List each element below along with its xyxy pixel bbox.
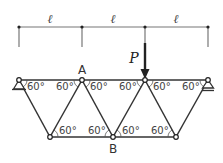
node-b (111, 135, 116, 140)
angle-label: 60° (27, 81, 45, 92)
label-b: B (109, 142, 117, 156)
angle-label: 60° (182, 81, 200, 92)
load-label: P (128, 50, 139, 66)
span-label-3: ℓ (174, 12, 179, 26)
angle-label: 60° (88, 125, 106, 136)
angle-label: 60° (90, 81, 108, 92)
load-arrow (141, 43, 150, 79)
angle-label: 60° (59, 125, 77, 136)
angle-label: 60° (56, 81, 74, 92)
node (48, 135, 53, 140)
node (143, 78, 148, 83)
angle-label: 60° (122, 125, 140, 136)
span-label-2: ℓ (111, 12, 116, 26)
truss-members (19, 80, 208, 137)
truss-diagram: ℓ ℓ ℓ P 60° 60° 60° 60° 60° 60° 60° 60° (0, 0, 223, 163)
dimension-line (19, 27, 208, 47)
node-a (80, 78, 85, 83)
node (17, 78, 22, 83)
node (174, 135, 179, 140)
angle-arcs (23, 80, 204, 137)
node (206, 78, 211, 83)
angle-label: 60° (153, 81, 171, 92)
label-a: A (78, 63, 87, 77)
span-label-1: ℓ (48, 12, 53, 26)
angle-label: 60° (119, 81, 137, 92)
angle-label: 60° (151, 125, 169, 136)
